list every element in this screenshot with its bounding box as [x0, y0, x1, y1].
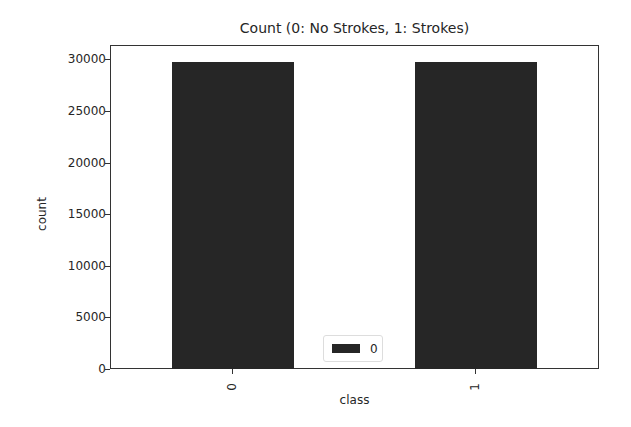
ytick-label: 15000 [68, 207, 106, 221]
ytick-label: 25000 [68, 104, 106, 118]
legend-label: 0 [370, 342, 378, 356]
legend-swatch [332, 344, 360, 353]
bar-class-0 [172, 62, 294, 369]
plot-area [110, 45, 599, 369]
ytick-label: 30000 [68, 52, 106, 66]
ytick-label: 0 [98, 362, 106, 376]
y-axis-label: count [35, 194, 49, 234]
x-axis-label: class [110, 393, 599, 407]
bar-class-1 [415, 62, 537, 369]
legend: 0 [323, 335, 383, 362]
xtick-label: 1 [468, 380, 482, 394]
ytick-label: 5000 [75, 310, 106, 324]
xtick-mark [475, 369, 476, 374]
xtick-mark [232, 369, 233, 374]
chart-title: Count (0: No Strokes, 1: Strokes) [110, 20, 599, 36]
ytick-label: 10000 [68, 259, 106, 273]
xtick-label: 0 [225, 380, 239, 394]
ytick-label: 20000 [68, 156, 106, 170]
